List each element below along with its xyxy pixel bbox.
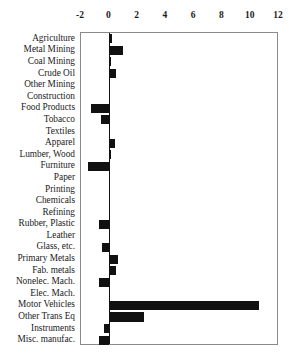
bar [88, 162, 109, 171]
y-axis-label-textiles: Textiles [46, 126, 75, 136]
bar [109, 57, 110, 66]
y-axis-label-paper: Paper [54, 172, 75, 182]
bar [109, 127, 110, 136]
bar [91, 104, 109, 113]
x-tick-label: 10 [245, 10, 255, 20]
y-axis-label-instruments: Instruments [31, 323, 75, 333]
plot-frame [80, 32, 278, 345]
bar [109, 266, 115, 275]
y-axis-label-leather: Leather [47, 230, 75, 240]
y-axis-label-agriculture: Agriculture [32, 33, 75, 43]
y-axis-label-glass-etc: Glass, etc. [37, 241, 75, 251]
bar [109, 139, 115, 148]
y-axis-label-furniture: Furniture [40, 160, 75, 170]
x-axis-tick-labels: -2024681012 [0, 0, 295, 32]
bar [109, 81, 110, 90]
y-axis-label-construction: Construction [27, 91, 75, 101]
x-tick-label: 0 [106, 10, 111, 20]
bar-chart: -2024681012 AgricultureMetal MiningCoal … [0, 0, 295, 362]
bar [109, 150, 110, 159]
bar [104, 324, 110, 333]
bar [109, 312, 144, 321]
y-axis-label-misc-manufac: Misc. manufac. [17, 334, 75, 344]
bar [99, 336, 110, 345]
x-tick-label: -2 [76, 10, 84, 20]
y-axis-label-nonelec-mach: Nonelec. Mach. [16, 276, 75, 286]
bar [101, 115, 109, 124]
y-axis-label-chemicals: Chemicals [36, 195, 75, 205]
bar [109, 255, 117, 264]
x-tick-label: 8 [219, 10, 224, 20]
x-tick-label: 4 [162, 10, 167, 20]
x-tick-label: 6 [191, 10, 196, 20]
y-axis-label-printing: Printing [45, 184, 75, 194]
bar [109, 69, 115, 78]
bar [99, 220, 110, 229]
plot-area [81, 33, 277, 344]
y-axis-label-rubber-plastic: Rubber, Plastic [19, 218, 75, 228]
y-axis-label-refining: Refining [42, 207, 75, 217]
bar [102, 243, 110, 252]
y-axis-label-apparel: Apparel [45, 137, 75, 147]
bar [99, 278, 109, 287]
bar [109, 34, 112, 43]
bar [109, 46, 123, 55]
y-axis-label-crude-oil: Crude Oil [38, 68, 75, 78]
x-tick-label: 2 [134, 10, 139, 20]
bar [109, 301, 259, 310]
y-axis-label-other-trans-eq: Other Trans Eq [18, 311, 75, 321]
y-axis-label-lumber-wood: Lumber, Wood [19, 149, 75, 159]
y-axis-label-coal-mining: Coal Mining [28, 56, 75, 66]
y-axis-label-other-mining: Other Mining [24, 79, 75, 89]
y-axis-label-primary-metals: Primary Metals [17, 253, 75, 263]
y-axis-category-labels: AgricultureMetal MiningCoal MiningCrude … [0, 32, 78, 345]
y-axis-label-tobacco: Tobacco [44, 114, 75, 124]
x-tick-label: 12 [273, 10, 283, 20]
y-axis-label-metal-mining: Metal Mining [24, 44, 75, 54]
zero-reference-line [109, 33, 110, 344]
y-axis-label-elec-mach: Elec. Mach. [30, 288, 75, 298]
y-axis-label-fab-metals: Fab. metals [32, 265, 75, 275]
y-axis-label-food-products: Food Products [21, 102, 75, 112]
y-axis-label-motor-vehicles: Motor Vehicles [18, 299, 75, 309]
